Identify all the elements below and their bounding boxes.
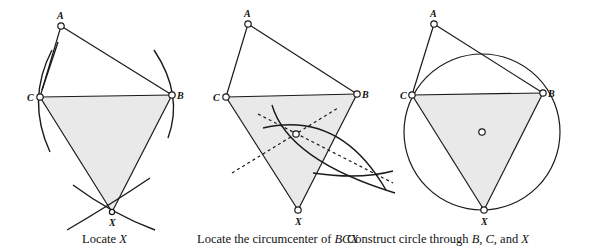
- label-x: X: [294, 216, 302, 227]
- segment-ac: [226, 24, 248, 97]
- point-b: [540, 90, 546, 96]
- label-c: C: [213, 92, 220, 103]
- label-x: X: [480, 216, 488, 227]
- caption-text: Locate the circumcenter of: [197, 232, 334, 246]
- caption-variable: X: [119, 232, 127, 246]
- point-x: [109, 209, 114, 214]
- point-c: [223, 94, 229, 100]
- point-c: [409, 92, 415, 98]
- compass-arc-3: [313, 171, 393, 176]
- triangle-bcx-shade: [226, 94, 357, 210]
- caption-sep: , and: [494, 232, 521, 246]
- point-a: [431, 21, 437, 27]
- caption-locate-circumcenter: Locate the circumcenter of BCX: [197, 232, 358, 247]
- segment-ab: [248, 24, 357, 94]
- point-b: [354, 91, 360, 97]
- panel-locate-circumcenter: A C B X: [213, 8, 395, 227]
- construction-diagram: A C B X A C B X: [0, 0, 600, 251]
- caption-locate-x: Locate X: [82, 232, 127, 247]
- caption-text: Construct circle through: [347, 232, 472, 246]
- label-x: X: [108, 217, 116, 228]
- point-b: [169, 92, 175, 98]
- caption-variable-x: X: [521, 232, 529, 246]
- caption-variable-c: C: [486, 232, 494, 246]
- segment-ab: [434, 24, 543, 93]
- label-c: C: [27, 92, 34, 103]
- segment-ab: [61, 26, 172, 95]
- caption-construct-circle: Construct circle through B, C, and X: [347, 232, 529, 247]
- point-c: [37, 94, 43, 100]
- point-circumcenter: [293, 131, 299, 137]
- triangle-bcx-shade: [40, 95, 172, 212]
- label-c: C: [400, 90, 407, 101]
- segment-ac: [412, 24, 434, 95]
- point-center: [479, 129, 485, 135]
- point-a: [245, 21, 251, 27]
- label-a: A: [243, 8, 251, 19]
- caption-text: Locate: [82, 232, 119, 246]
- point-x: [481, 207, 487, 213]
- panel-construct-circle: A C B X: [400, 8, 560, 227]
- point-a: [58, 23, 64, 29]
- label-b: B: [547, 88, 555, 99]
- panel-locate-x: A C B X: [27, 10, 184, 230]
- label-b: B: [361, 89, 369, 100]
- label-a: A: [56, 10, 64, 21]
- point-x: [295, 207, 301, 213]
- label-a: A: [429, 8, 437, 19]
- label-b: B: [176, 90, 184, 101]
- triangle-bcx-shade: [412, 93, 543, 210]
